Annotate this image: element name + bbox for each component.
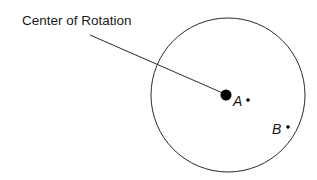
- callout-leader-line: [90, 35, 225, 94]
- point-a-label: A: [233, 94, 242, 108]
- point-a-dot: [246, 98, 250, 102]
- point-b-dot: [286, 125, 290, 129]
- center-of-rotation-label: Center of Rotation: [22, 14, 132, 28]
- rotation-diagram: Center of Rotation A B: [0, 0, 317, 180]
- point-b-label: B: [272, 122, 281, 136]
- center-of-rotation-dot: [221, 90, 232, 101]
